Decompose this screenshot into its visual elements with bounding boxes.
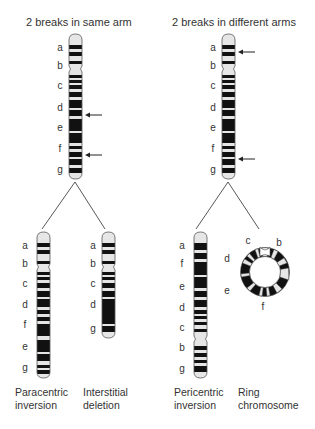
band-label: c bbox=[87, 279, 99, 289]
band-label: b bbox=[176, 343, 188, 353]
caption-line: inversion bbox=[174, 399, 224, 412]
band-label: a bbox=[176, 241, 188, 251]
chromosome-interstitial-deletion bbox=[102, 232, 115, 338]
band-label: d bbox=[87, 300, 99, 310]
band-label: e bbox=[19, 342, 31, 352]
band-label: f bbox=[176, 259, 188, 269]
break-arrow-3 bbox=[238, 50, 255, 55]
band-label: b bbox=[273, 238, 285, 248]
band-label: e bbox=[221, 286, 233, 296]
caption-line: Pericentric bbox=[174, 386, 224, 399]
caption-pericentric-inversion: Pericentric inversion bbox=[174, 386, 224, 412]
caption-line: inversion bbox=[15, 399, 68, 412]
connector-lines-left bbox=[42, 182, 105, 229]
band-label: c bbox=[242, 236, 254, 246]
band-label: f bbox=[54, 144, 66, 154]
connector-lines-right bbox=[196, 182, 259, 229]
band-label: f bbox=[19, 320, 31, 330]
break-arrow-2 bbox=[85, 153, 102, 158]
chromosome-original-different-arms bbox=[222, 34, 235, 179]
band-label: a bbox=[207, 43, 219, 53]
band-label: e bbox=[54, 123, 66, 133]
band-label: g bbox=[19, 363, 31, 373]
band-label: a bbox=[54, 43, 66, 53]
band-label: g bbox=[54, 165, 66, 175]
chromosome-paracentric-inversion bbox=[37, 232, 50, 378]
band-label: b bbox=[54, 61, 66, 71]
chromosome-pericentric-inversion bbox=[194, 232, 207, 378]
ring-chromosome bbox=[241, 247, 290, 297]
break-arrow-1 bbox=[85, 113, 102, 118]
band-label: f bbox=[207, 144, 219, 154]
caption-paracentric-inversion: Paracentric inversion bbox=[15, 386, 68, 412]
band-label: f bbox=[257, 302, 269, 312]
band-label: a bbox=[87, 241, 99, 251]
diagram-canvas bbox=[0, 0, 315, 429]
band-label: c bbox=[207, 81, 219, 91]
band-label: d bbox=[221, 254, 233, 264]
band-label: b bbox=[87, 259, 99, 269]
caption-ring-chromosome: Ring chromosome bbox=[238, 386, 299, 412]
band-label: b bbox=[19, 259, 31, 269]
band-label: e bbox=[207, 123, 219, 133]
caption-line: Paracentric bbox=[15, 386, 68, 399]
chromosome-original-same-arm bbox=[69, 34, 82, 179]
band-label: c bbox=[54, 81, 66, 91]
caption-interstitial-deletion: Interstitial deletion bbox=[83, 386, 128, 412]
band-label: g bbox=[176, 364, 188, 374]
band-label: c bbox=[176, 323, 188, 333]
break-arrow-4 bbox=[238, 157, 255, 162]
band-label: e bbox=[176, 282, 188, 292]
band-label: g bbox=[207, 165, 219, 175]
caption-line: chromosome bbox=[238, 399, 299, 412]
band-label: c bbox=[19, 279, 31, 289]
band-label: b bbox=[207, 61, 219, 71]
caption-line: deletion bbox=[83, 399, 128, 412]
band-label: a bbox=[19, 241, 31, 251]
caption-line: Ring bbox=[238, 386, 299, 399]
band-label: d bbox=[176, 303, 188, 313]
band-label: d bbox=[19, 300, 31, 310]
band-label: d bbox=[207, 103, 219, 113]
band-label: d bbox=[54, 103, 66, 113]
band-label: g bbox=[87, 324, 99, 334]
caption-line: Interstitial bbox=[83, 386, 128, 399]
